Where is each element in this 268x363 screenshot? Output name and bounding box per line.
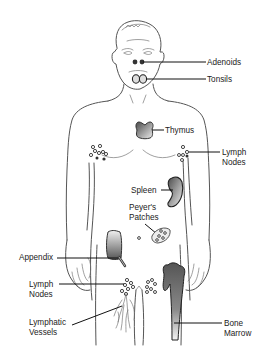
label-adenoids: Adenoids [207, 58, 241, 67]
lymphatic-vessels [114, 294, 134, 332]
spleen-organ [168, 177, 183, 207]
label-lymphatic-1: Lymphatic [29, 318, 66, 327]
label-bone-1: Bone [224, 319, 244, 328]
appendix-organ [107, 231, 126, 267]
tonsils-organ [132, 75, 146, 83]
label-peyers-2: Patches [129, 213, 159, 222]
peyers-patches-organ [138, 228, 171, 243]
thymus-organ [136, 122, 153, 139]
label-lymph-nodes-upper-1: Lymph [222, 148, 247, 157]
label-lymph-nodes-lower-1: Lymph [29, 280, 54, 289]
label-lymph-nodes-lower-2: Nodes [29, 290, 53, 299]
label-lymphatic-2: Vessels [29, 328, 57, 337]
inguinal-lymph-nodes-left [120, 278, 134, 295]
inguinal-lymph-nodes-right [146, 279, 157, 294]
axillary-lymph-nodes-left [89, 144, 107, 160]
label-lymph-nodes-upper-2: Nodes [222, 158, 246, 167]
adenoids-organ [133, 60, 145, 65]
body-outline [66, 21, 211, 345]
label-tonsils: Tonsils [207, 75, 232, 84]
label-appendix: Appendix [19, 253, 53, 262]
label-bone-2: Marrow [224, 329, 251, 338]
label-thymus: Thymus [165, 126, 194, 135]
axillary-lymph-nodes-right [178, 145, 189, 161]
label-spleen: Spleen [131, 186, 157, 195]
lymphatic-system-diagram: Adenoids Tonsils Thymus Lymph Nodes Sple… [0, 0, 268, 363]
label-peyers-1: Peyer's [129, 203, 156, 212]
